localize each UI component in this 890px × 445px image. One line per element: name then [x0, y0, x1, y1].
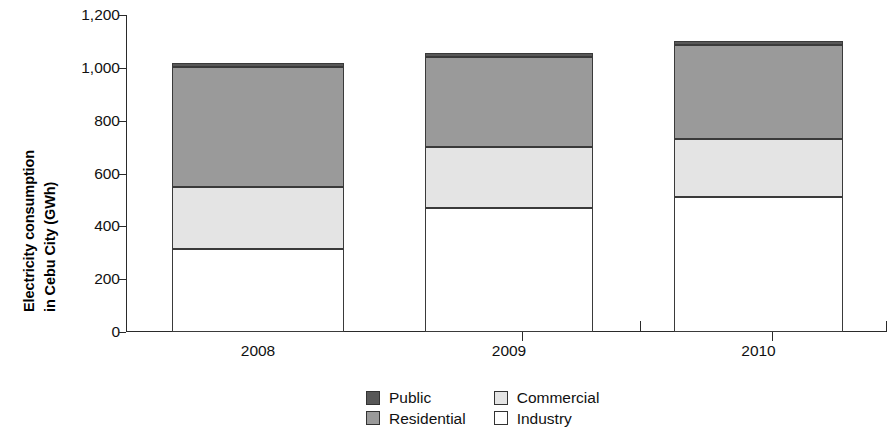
x-axis-minor-tick-mark	[772, 332, 773, 341]
bar-2008	[172, 10, 344, 332]
x-axis-tick-mark	[640, 321, 641, 332]
bar-segment-industry-2008	[172, 249, 344, 332]
chart-legend: PublicCommercialResidentialIndustry	[366, 390, 599, 426]
y-axis-tick-labels: 02004006008001,0001,200	[52, 10, 120, 332]
x-axis-category-labels: 200820092010	[126, 342, 886, 372]
stacked-bar-chart: Electricity consumption in Cebu City (GW…	[0, 0, 890, 445]
legend-swatch-industry-icon	[494, 411, 508, 425]
y-axis-tick-mark	[119, 121, 126, 122]
y-axis-tick-label: 1,200	[58, 6, 120, 24]
legend-item-industry[interactable]: Industry	[494, 411, 600, 427]
y-axis-tick-label: 200	[58, 270, 120, 288]
y-axis-tick-mark	[119, 226, 126, 227]
x-axis-label-2010: 2010	[741, 342, 775, 360]
bar-segment-public-2008	[172, 63, 344, 67]
bar-segment-residential-2008	[172, 67, 344, 187]
y-axis-tick-mark	[119, 174, 126, 175]
y-axis-title-line-1: Electricity consumption	[21, 150, 37, 312]
y-axis-tick-label: 600	[58, 165, 120, 183]
plot-area	[126, 10, 886, 332]
bar-segment-commercial-2009	[425, 147, 593, 208]
legend-item-public[interactable]: Public	[366, 390, 466, 406]
y-axis-tick-mark	[119, 332, 126, 333]
bar-segment-residential-2010	[674, 45, 843, 139]
y-axis-tick-mark	[119, 68, 126, 69]
legend-label: Public	[389, 390, 431, 406]
legend-label: Industry	[517, 411, 572, 427]
bar-2010	[674, 10, 843, 332]
legend-swatch-commercial-icon	[494, 391, 508, 405]
legend-label: Commercial	[517, 390, 600, 406]
bar-segment-residential-2009	[425, 57, 593, 147]
bar-segment-public-2010	[674, 41, 843, 45]
y-axis-title: Electricity consumption in Cebu City (GW…	[0, 0, 52, 340]
bar-segment-commercial-2008	[172, 187, 344, 249]
x-axis-tick-mark	[886, 321, 887, 332]
y-axis-tick-label: 400	[58, 217, 120, 235]
y-axis-line	[126, 15, 127, 332]
legend-swatch-residential-icon	[366, 411, 380, 425]
legend-item-residential[interactable]: Residential	[366, 411, 466, 427]
x-axis-label-2009: 2009	[492, 342, 526, 360]
x-axis-minor-tick-mark	[522, 332, 523, 341]
legend-item-commercial[interactable]: Commercial	[494, 390, 600, 406]
y-axis-tick-mark	[119, 15, 126, 16]
x-axis-tick-mark	[126, 321, 127, 332]
bar-segment-industry-2010	[674, 197, 843, 332]
y-axis-tick-mark	[119, 279, 126, 280]
bar-segment-industry-2009	[425, 208, 593, 332]
bar-2009	[425, 10, 593, 332]
y-axis-tick-label: 0	[58, 323, 120, 341]
y-axis-tick-label: 1,000	[58, 59, 120, 77]
y-axis-tick-label: 800	[58, 112, 120, 130]
bar-segment-public-2009	[425, 53, 593, 57]
legend-swatch-public-icon	[366, 391, 380, 405]
bar-segment-commercial-2010	[674, 139, 843, 197]
x-axis-label-2008: 2008	[241, 342, 275, 360]
legend-label: Residential	[389, 411, 466, 427]
